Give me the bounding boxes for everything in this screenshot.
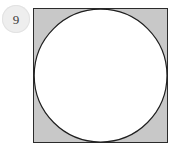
problem-number-label: 9 [13,13,20,26]
problem-number-badge: 9 [2,5,30,33]
inscribed-circle-shape [35,10,168,143]
diagram-canvas [32,7,169,146]
figure-root: 9 [0,0,176,153]
inscribed-circle-diagram [32,7,169,146]
